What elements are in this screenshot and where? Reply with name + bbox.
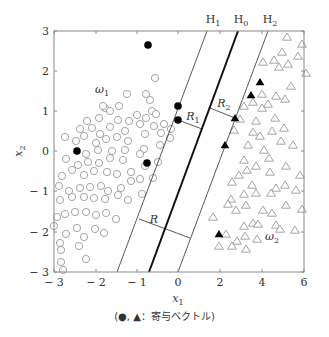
class1-point [96,130,103,137]
class1-point [90,194,97,201]
class2-point [277,137,286,144]
class2-point [235,171,244,178]
class1-point [127,168,134,175]
class1-point [112,215,119,222]
class1-point [76,125,83,132]
class1-point [57,258,64,265]
class2-point [272,92,281,99]
class1-point [92,211,99,218]
class1-point [72,137,79,144]
class1-point [124,196,131,203]
class2-point [232,206,241,213]
svm-margin-figure: − 3− 2− 102463210− 1− 2− 3x1x2 H1H0H2R1R… [0,0,329,337]
class1-point [117,184,124,191]
class2-point [296,171,305,178]
x-tick-label: − 2 [86,276,106,289]
class2-point [270,56,279,63]
class1-point [56,196,63,203]
class1-point [56,239,63,246]
class1-point [71,208,78,215]
class2-point [259,58,268,65]
class2-point [240,222,249,229]
class1-point [113,133,120,140]
class1-point [121,127,128,134]
class1-point [106,107,113,114]
class1-point [142,114,149,121]
class1-point [61,210,68,217]
class2-point [302,69,311,76]
class1-point [115,102,122,109]
class2-point [292,186,301,193]
class1-point [92,139,99,146]
class2-point [287,82,296,89]
x-tick-label: − 1 [127,276,147,289]
class2-point [268,127,277,134]
y-axis-label: x2 [12,145,27,156]
class1-point [160,120,167,127]
class1-point [103,168,110,175]
class2-point [280,124,289,131]
class1-point [73,224,80,231]
class1-point [80,132,87,139]
class1-point [136,175,143,182]
x-tick-label: 2 [217,276,224,289]
class1-point [102,209,109,216]
class2-point [215,242,224,249]
class2-point [298,40,307,47]
class2-point [284,60,293,67]
class1-point [146,96,153,103]
class2-point [278,48,287,55]
class1-point [150,122,157,129]
support-vector-triangle [247,91,256,98]
class2-point [264,100,273,107]
x-tick-label: 4 [259,276,266,289]
class2-point [291,226,300,233]
support-vector-triangle [256,78,265,85]
class1-point [61,133,68,140]
class1-point [108,147,115,154]
class1-point [76,184,83,191]
label-omega1: ω1 [95,83,109,98]
class1-point [99,102,106,109]
class2-point [289,141,298,148]
class1-point [83,117,90,124]
class1-point [80,193,87,200]
class2-point [243,166,252,173]
class1-point [106,154,113,161]
class1-point [57,246,64,253]
class2-point [298,205,307,212]
x-tick-label: 0 [175,276,182,289]
y-tick-label: − 2 [29,226,49,239]
class2-point [209,213,218,220]
y-tick-label: − 1 [29,185,49,198]
class2-point [244,141,253,148]
class1-point [95,159,102,166]
support-vector-circle [73,147,81,155]
class2-point [248,181,257,188]
class1-point [157,129,164,136]
x-axis-label: x1 [172,292,183,307]
class2-point [259,206,268,213]
class2-point [266,168,275,175]
class1-point [94,146,101,153]
class2-point [222,230,231,237]
class1-point [62,155,69,162]
label-r1: R1 [185,110,199,125]
class1-point [119,156,126,163]
label-h1: H1 [206,13,221,28]
class2-point [258,90,267,97]
class1-point [104,187,111,194]
class2-point [252,117,261,124]
class2-point [249,128,258,135]
class1-point [136,120,143,127]
class1-point [59,266,66,273]
y-tick-label: − 3 [29,266,49,279]
class2-point [228,178,237,185]
class1-point [62,230,69,237]
figure-caption: (●, ▲：寄与ベクトル) [0,308,329,323]
y-tick-label: 2 [42,65,49,78]
y-tick-label: 3 [42,25,49,38]
class1-point [58,172,65,179]
class1-point [141,130,148,137]
class1-point [84,158,91,165]
